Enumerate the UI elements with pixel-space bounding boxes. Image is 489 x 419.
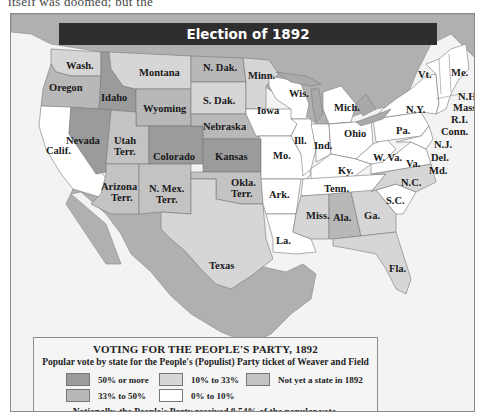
label-ri: R.I. bbox=[451, 114, 468, 125]
label-ill: Ill. bbox=[294, 135, 307, 146]
label-mich: Mich. bbox=[334, 102, 360, 113]
label-ind: Ind. bbox=[314, 140, 333, 151]
label-n-dak: N. Dak. bbox=[203, 62, 238, 73]
label-texas: Texas bbox=[209, 260, 234, 271]
label-wash: Wash. bbox=[66, 60, 94, 71]
legend-item-not-state: Not yet a state in 1892 bbox=[246, 373, 363, 386]
label-miss: Miss. bbox=[306, 210, 330, 221]
label-ky: Ky. bbox=[338, 165, 354, 176]
legend-title: VOTING FOR THE PEOPLE'S PARTY, 1892 bbox=[34, 343, 377, 355]
label-montana: Montana bbox=[139, 67, 181, 78]
label-ala: Ala. bbox=[333, 212, 352, 223]
legend-item-33-50: 33% to 50% bbox=[66, 389, 146, 402]
label-vt: Vt. bbox=[418, 69, 432, 80]
label-mo: Mo. bbox=[273, 150, 291, 161]
swatch-33-50 bbox=[66, 389, 90, 402]
legend-label: 10% to 33% bbox=[191, 375, 239, 385]
label-tenn: Tenn. bbox=[324, 183, 349, 194]
swatch-0-10 bbox=[159, 389, 183, 402]
label-pa: Pa. bbox=[396, 125, 411, 136]
legend-label: Not yet a state in 1892 bbox=[278, 375, 363, 385]
label-iowa: Iowa bbox=[257, 105, 280, 116]
label-wis: Wis. bbox=[289, 88, 309, 99]
label-utah: UtahTerr. bbox=[114, 135, 136, 157]
label-nj: N.J. bbox=[434, 139, 452, 150]
label-del: Del. bbox=[431, 152, 449, 163]
legend-label: 50% or more bbox=[98, 375, 149, 385]
legend-label: 33% to 50% bbox=[98, 391, 146, 401]
legend-label: 0% to 10% bbox=[191, 391, 235, 401]
label-colorado: Colorado bbox=[153, 151, 195, 162]
swatch-over-50 bbox=[66, 373, 90, 386]
legend-note: Nationally, the People's Party received … bbox=[34, 407, 377, 412]
label-me: Me. bbox=[451, 67, 469, 78]
label-conn: Conn. bbox=[441, 126, 469, 137]
label-s-dak: S. Dak. bbox=[203, 95, 236, 106]
label-nh: N.H. bbox=[458, 91, 475, 102]
label-nc: N.C. bbox=[401, 177, 422, 188]
label-ga: Ga. bbox=[364, 210, 380, 221]
label-kansas: Kansas bbox=[215, 151, 248, 162]
label-nebraska: Nebraska bbox=[203, 121, 247, 132]
map-legend: VOTING FOR THE PEOPLE'S PARTY, 1892 Popu… bbox=[33, 337, 378, 412]
label-ark: Ark. bbox=[269, 189, 290, 200]
legend-subtitle: Popular vote by state for the People's (… bbox=[34, 357, 377, 367]
map-frame: Election of 1892 bbox=[10, 13, 475, 412]
swatch-10-33 bbox=[159, 373, 183, 386]
label-va: Va. bbox=[406, 158, 421, 169]
label-la: La. bbox=[276, 235, 291, 246]
label-mass: Mass. bbox=[453, 102, 475, 113]
swatch-not-state bbox=[246, 373, 270, 386]
page-text: itself was doomed; but the bbox=[8, 0, 153, 10]
label-nevada: Nevada bbox=[66, 135, 101, 146]
label-idaho: Idaho bbox=[101, 92, 127, 103]
map-title: Election of 1892 bbox=[59, 23, 437, 45]
label-sc: S.C. bbox=[386, 195, 405, 206]
label-okla: Okla.Terr. bbox=[231, 177, 256, 199]
page-text-fragment: itself was doomed; but the bbox=[0, 0, 489, 10]
label-md: Md. bbox=[429, 165, 448, 176]
label-wyoming: Wyoming bbox=[143, 103, 187, 114]
label-minn: Minn. bbox=[248, 70, 276, 81]
label-ohio: Ohio bbox=[344, 128, 366, 139]
legend-item-10-33: 10% to 33% bbox=[159, 373, 239, 386]
legend-item-0-10: 0% to 10% bbox=[159, 389, 235, 402]
label-ny: N.Y. bbox=[406, 104, 426, 115]
label-w-va: W. Va. bbox=[373, 152, 402, 163]
label-fla: Fla. bbox=[389, 263, 407, 274]
legend-item-over-50: 50% or more bbox=[66, 373, 149, 386]
label-calif: Calif. bbox=[46, 145, 71, 156]
label-oregon: Oregon bbox=[49, 82, 83, 93]
